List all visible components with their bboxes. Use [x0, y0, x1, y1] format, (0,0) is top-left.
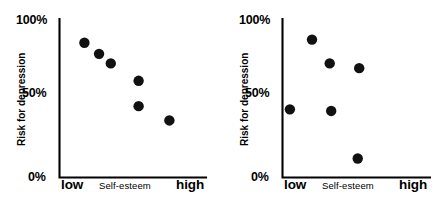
x-axis-high-label: high [176, 178, 204, 192]
scatterplot-figure: 100% 50% 0% Risk for depression low Self… [0, 0, 442, 201]
data-point [79, 38, 89, 48]
data-point [106, 58, 116, 68]
x-axis-low-label: low [61, 178, 83, 192]
data-point [307, 34, 317, 44]
chart-panel-right: 100% 50% 0% Risk for depression low Self… [221, 0, 442, 201]
data-point [133, 76, 143, 86]
data-point [285, 104, 295, 114]
data-point [94, 49, 104, 59]
x-axis-title: Self-esteem [99, 181, 151, 191]
x-axis-high-label: high [399, 178, 427, 192]
data-points-right [285, 34, 365, 163]
chart-panel-left: 100% 50% 0% Risk for depression low Self… [0, 0, 221, 201]
data-point [354, 63, 364, 73]
y-axis-title: Risk for depression [240, 53, 250, 146]
data-point [326, 106, 336, 116]
y-tick-label-0: 0% [28, 171, 46, 184]
y-tick-label-100: 100% [239, 14, 270, 27]
x-axis-low-label: low [284, 178, 306, 192]
x-axis-title: Self-esteem [322, 181, 374, 191]
data-point [164, 115, 174, 125]
y-axis-title: Risk for depression [17, 53, 27, 146]
data-point [353, 153, 363, 163]
y-tick-label-100: 100% [16, 14, 47, 27]
data-point [133, 101, 143, 111]
y-tick-label-0: 0% [251, 171, 269, 184]
data-point [325, 58, 335, 68]
data-points-left [79, 38, 174, 126]
